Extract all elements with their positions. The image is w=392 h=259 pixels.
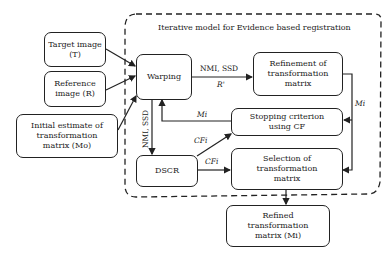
node-dscr: DSCR bbox=[136, 155, 198, 187]
node-reference-image: Reference image (R) bbox=[44, 71, 106, 107]
node-label: Reference image (R) bbox=[45, 79, 105, 99]
node-initial-estimate: Initial estimate of transformation matri… bbox=[16, 114, 118, 158]
node-label: Target image (T) bbox=[45, 40, 105, 60]
edge-label-cfi-stop: CFi bbox=[194, 136, 207, 145]
node-target-image: Target image (T) bbox=[44, 32, 106, 67]
edge-label-cfi-select: CFi bbox=[205, 157, 218, 166]
edge-label-nmi-ssd: NMI, SSD bbox=[200, 64, 238, 73]
node-label: Refinement of transformation matrix bbox=[262, 59, 334, 89]
node-label: Initial estimate of transformation matri… bbox=[25, 121, 109, 151]
node-label: DSCR bbox=[155, 166, 179, 176]
edge-label-r-prime: R' bbox=[217, 80, 225, 89]
node-refined-matrix: Refined transformation matrix (Mi) bbox=[226, 205, 330, 247]
edge-label-nmi-ssd-vertical: NMI, SSD bbox=[141, 110, 150, 148]
node-label: Selection of transformation matrix bbox=[248, 154, 326, 184]
node-stopping-criterion: Stopping criterion using CF bbox=[231, 108, 343, 136]
edge-label-mi-refine: Mi bbox=[355, 99, 365, 108]
node-label: Stopping criterion using CF bbox=[246, 112, 328, 132]
node-selection: Selection of transformation matrix bbox=[231, 148, 343, 190]
container-title: Iterative model for Evidence based regis… bbox=[158, 23, 351, 32]
node-refinement: Refinement of transformation matrix bbox=[253, 52, 343, 96]
node-warping: Warping bbox=[136, 54, 192, 100]
node-label: Warping bbox=[147, 72, 181, 82]
node-label: Refined transformation matrix (Mi) bbox=[243, 211, 313, 241]
edge-label-mi-stop: Mi bbox=[197, 110, 207, 119]
